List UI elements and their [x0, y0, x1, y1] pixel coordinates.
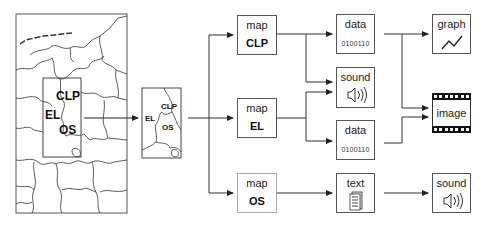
image-box: image — [432, 93, 471, 133]
sound-box-1: sound — [336, 67, 375, 108]
image-box-label: image — [437, 107, 467, 119]
map-os-label: map — [238, 177, 276, 189]
text-box-label: text — [337, 177, 374, 189]
sound-box-2-label: sound — [433, 177, 470, 189]
speaker-icon — [439, 191, 465, 211]
document-icon — [349, 191, 363, 211]
source-map-label-os: OS — [59, 123, 76, 137]
map-clp-box: map CLP — [237, 15, 277, 55]
map-os-box: map OS — [237, 173, 277, 213]
text-box: text — [336, 173, 375, 213]
map-clp-label: map — [238, 19, 276, 31]
source-map — [16, 14, 127, 213]
source-map-label-el: EL — [45, 108, 60, 122]
film-strip-icon — [432, 93, 471, 100]
data-box-2-binary: 0100110 — [337, 146, 374, 153]
sound-box-2: sound — [432, 173, 471, 213]
detail-map-label-os: OS — [162, 123, 174, 132]
map-clp-region: CLP — [238, 37, 276, 49]
data-box-1: data 0100110 — [336, 14, 375, 54]
connectors-stage1 — [188, 35, 233, 193]
connectors-stage2 — [277, 34, 332, 193]
graph-box-label: graph — [433, 18, 470, 30]
data-box-2: data 0100110 — [336, 120, 375, 160]
detail-map-label-el: EL — [145, 114, 155, 123]
graph-box: graph — [432, 14, 471, 54]
data-box-2-label: data — [337, 124, 374, 136]
speaker-icon — [343, 85, 369, 105]
connectors-stage3 — [384, 34, 428, 193]
data-box-1-binary: 0100110 — [337, 40, 374, 47]
map-el-label: map — [238, 102, 276, 114]
map-os-region: OS — [238, 195, 276, 207]
sound-box-1-label: sound — [337, 71, 374, 83]
source-map-label-clp: CLP — [56, 89, 80, 103]
map-el-box: map EL — [237, 98, 277, 138]
data-box-1-label: data — [337, 18, 374, 30]
line-graph-icon — [439, 32, 465, 52]
detail-map-label-clp: CLP — [161, 102, 177, 111]
map-el-region: EL — [238, 120, 276, 132]
